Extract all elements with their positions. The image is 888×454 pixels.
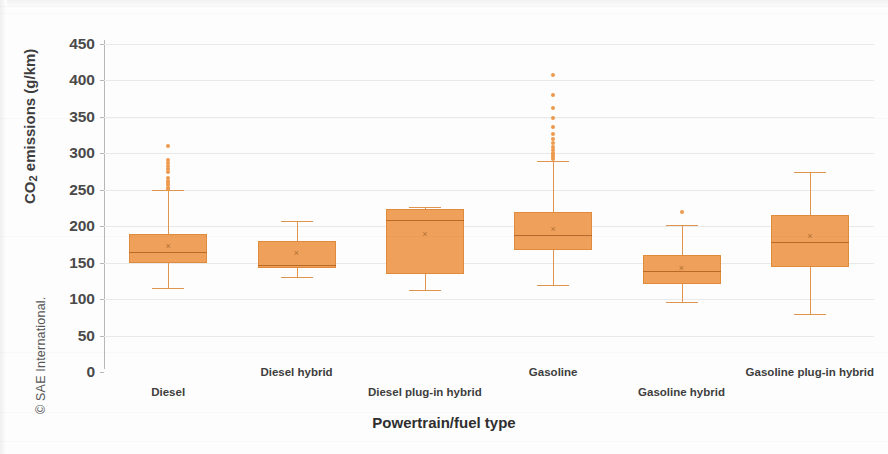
outlier-point[interactable] — [166, 144, 170, 148]
box-iqr[interactable] — [771, 215, 849, 267]
box-iqr[interactable] — [386, 209, 464, 274]
y-tick-mark — [100, 80, 104, 81]
paper-texture-band — [0, 13, 888, 14]
paper-texture-band — [0, 6, 888, 7]
y-tick-mark — [100, 44, 104, 45]
gridline — [104, 190, 874, 191]
whisker-cap-high — [281, 221, 313, 222]
y-tick-mark — [100, 190, 104, 191]
mean-marker: × — [551, 225, 556, 234]
x-axis-label-gasoline-plug-in-hybrid: Gasoline plug-in hybrid — [746, 366, 874, 378]
page-edge-left — [0, 0, 7, 454]
outlier-point[interactable] — [551, 73, 555, 77]
copyright-watermark: © SAE International. — [34, 244, 48, 414]
y-tick-mark — [100, 263, 104, 264]
whisker-cap-low — [666, 302, 698, 303]
outlier-point[interactable] — [166, 158, 170, 162]
x-axis-title: Powertrain/fuel type — [0, 414, 888, 431]
outlier-point[interactable] — [551, 93, 555, 97]
whisker-cap-low — [152, 288, 184, 289]
x-axis-label-gasoline-hybrid: Gasoline hybrid — [638, 386, 725, 398]
median-line — [129, 252, 207, 253]
x-axis-label-gasoline: Gasoline — [529, 366, 578, 378]
mean-marker: × — [294, 249, 299, 258]
y-tick-label: 150 — [69, 254, 95, 272]
whisker-cap-low — [537, 285, 569, 286]
x-axis-label-diesel-hybrid: Diesel hybrid — [260, 366, 332, 378]
outlier-point[interactable] — [551, 132, 555, 136]
whisker-cap-high — [666, 225, 698, 226]
gridline — [104, 44, 874, 45]
y-tick-label: 450 — [69, 35, 95, 53]
y-tick-mark — [100, 372, 104, 373]
y-tick-label: 250 — [69, 181, 95, 199]
y-axis-title-suffix: emissions (g/km) — [21, 49, 38, 176]
outlier-point[interactable] — [551, 137, 555, 141]
y-axis-line — [104, 40, 105, 369]
median-line — [386, 220, 464, 221]
paper-texture-band — [0, 441, 888, 442]
y-tick-label: 100 — [69, 290, 95, 308]
y-tick-mark — [100, 336, 104, 337]
page-edge-top — [0, 0, 888, 9]
outlier-point[interactable] — [551, 141, 555, 145]
chart-root: © SAE International. CO2 emissions (g/km… — [0, 0, 888, 454]
whisker-cap-low — [281, 277, 313, 278]
median-line — [258, 265, 336, 266]
gridline — [104, 153, 874, 154]
y-axis-title-subscript: 2 — [27, 175, 39, 181]
gridline — [104, 263, 874, 264]
outlier-point[interactable] — [166, 176, 170, 180]
gridline — [104, 299, 874, 300]
mean-marker: × — [679, 263, 684, 272]
median-line — [771, 242, 849, 243]
y-tick-label: 0 — [86, 363, 95, 381]
gridline — [104, 226, 874, 227]
y-tick-label: 350 — [69, 108, 95, 126]
y-tick-label: 50 — [78, 327, 95, 345]
outlier-point[interactable] — [551, 106, 555, 110]
y-tick-label: 300 — [69, 144, 95, 162]
y-tick-mark — [100, 299, 104, 300]
y-tick-label: 400 — [69, 71, 95, 89]
y-axis-title-prefix: CO — [21, 182, 38, 205]
gridline — [104, 80, 874, 81]
whisker-cap-high — [409, 207, 441, 208]
paper-texture-band — [0, 118, 888, 119]
paper-texture-band — [0, 352, 888, 353]
outlier-point[interactable] — [551, 125, 555, 129]
outlier-point[interactable] — [680, 210, 684, 214]
y-axis-title: CO2 emissions (g/km) — [21, 49, 39, 204]
y-tick-mark — [100, 226, 104, 227]
y-tick-mark — [100, 153, 104, 154]
paper-texture-band — [0, 412, 888, 413]
plot-area: 050100150200250300350400450 ×××××× — [104, 40, 874, 368]
outlier-point[interactable] — [551, 145, 555, 149]
whisker-cap-high — [794, 172, 826, 173]
x-axis-label-diesel-plug-in-hybrid: Diesel plug-in hybrid — [368, 386, 482, 398]
paper-texture-band — [0, 236, 888, 237]
x-axis-label-diesel: Diesel — [151, 386, 185, 398]
whisker-cap-low — [409, 290, 441, 291]
mean-marker: × — [166, 241, 171, 250]
whisker-cap-low — [794, 314, 826, 315]
gridline — [104, 336, 874, 337]
y-tick-label: 200 — [69, 217, 95, 235]
